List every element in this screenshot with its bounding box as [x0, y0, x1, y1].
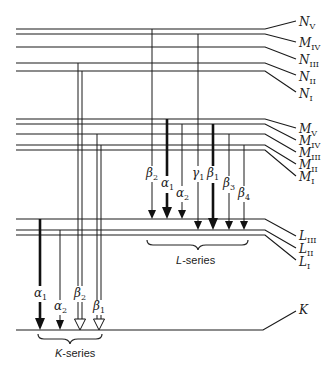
k-series-brace — [38, 334, 102, 344]
l-series-transitions — [148, 29, 248, 230]
label-m4-top: MIV — [298, 36, 320, 52]
l-alpha2-arrowhead — [178, 210, 186, 219]
level-line-l1 — [16, 235, 296, 260]
k-series-label: K-series — [55, 347, 96, 359]
k-alpha1-arrowhead — [35, 318, 45, 330]
l-beta3-arrowhead — [225, 221, 233, 230]
l-alpha1-label: α1 — [161, 176, 174, 192]
l-beta4-arrowhead — [240, 221, 248, 230]
label-n2: NII — [298, 70, 316, 86]
k-beta1-arrowhead — [94, 319, 105, 330]
l-beta2-label: β2 — [145, 166, 158, 182]
level-line-n3 — [16, 47, 296, 59]
l-gamma1-arrowhead — [194, 221, 202, 230]
label-k: K — [298, 303, 309, 317]
l-beta1-arrowhead — [208, 218, 218, 230]
l-alpha1-arrowhead — [162, 207, 172, 219]
label-n1: NI — [298, 87, 313, 103]
level-line-l3 — [16, 219, 296, 236]
m-shell-labels: MV MIV MIII MII MI — [298, 122, 321, 186]
label-n3: NIII — [298, 53, 319, 69]
level-line-n1 — [16, 71, 296, 92]
l-beta3-label: β3 — [222, 176, 235, 192]
l-beta4-label: β4 — [237, 186, 250, 202]
level-line-m3 — [16, 134, 296, 152]
l-beta1-label: β1 — [206, 166, 219, 182]
k-beta2-arrowhead — [75, 319, 86, 330]
label-n5: NV — [298, 15, 316, 31]
m-shell-levels — [16, 119, 296, 176]
k-series-labels: α1 α2 β2 β1 — [33, 286, 107, 315]
l-series-label: L-series — [176, 254, 216, 266]
l-shell-levels — [16, 219, 296, 260]
l-shell-labels: LIII LII LI — [298, 229, 316, 271]
l-beta2-arrowhead — [148, 210, 156, 219]
l-gamma1-label: γ1 — [192, 166, 204, 182]
k-alpha2-arrowhead — [56, 320, 64, 330]
level-line-m2 — [16, 145, 296, 164]
n-shell-levels — [16, 21, 296, 92]
diagram-canvas: NV MIV NIII NII NI MV MIV MIII MII MI LI… — [0, 0, 331, 367]
l-series-brace — [147, 240, 248, 250]
l-alpha2-label: α2 — [176, 186, 189, 202]
level-line-n2 — [16, 63, 296, 75]
level-line-n4 — [16, 34, 296, 42]
level-line-m4 — [16, 124, 296, 140]
level-line-n5 — [16, 21, 296, 29]
xray-level-diagram: NV MIV NIII NII NI MV MIV MIII MII MI LI… — [0, 0, 331, 367]
n-shell-labels: NV MIV NIII NII NI — [298, 15, 320, 103]
